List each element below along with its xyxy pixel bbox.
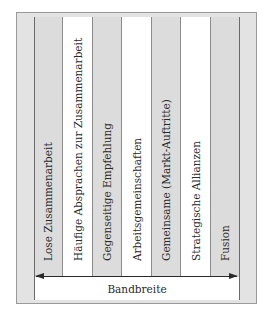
column-label: Häufige Absprachen zur Zusammenarbeit (72, 37, 83, 260)
column-label: Fusion (220, 225, 231, 261)
left-guide-line (34, 17, 35, 300)
arrow-right-icon (229, 273, 238, 279)
column-label: Gemeinsame (Markt-Auftritte) (161, 99, 172, 261)
column-arbeitsgemeinschaften: Arbeitsgemeinschaften (122, 17, 152, 277)
right-guide-line (239, 17, 240, 300)
column-fusion: Fusion (211, 17, 239, 277)
column-label: Strategische Allianzen (190, 141, 201, 261)
column-lose-zusammenarbeit: Lose Zusammenarbeit (34, 17, 63, 277)
column-gegenseitige-empfehlung: Gegenseitige Empfehlung (93, 17, 122, 277)
arrow-left-icon (35, 273, 44, 279)
column-label: Gegenseitige Empfehlung (102, 123, 113, 261)
bandwidth-label: Bandbreite (34, 283, 240, 295)
column-gemeinsame-marktauftritte: Gemeinsame (Markt-Auftritte) (152, 17, 181, 277)
column-haeufige-absprachen: Häufige Absprachen zur Zusammenarbeit (63, 17, 93, 277)
bandwidth-arrow-line (36, 276, 237, 277)
column-label: Lose Zusammenarbeit (43, 142, 54, 261)
column-strategische-allianzen: Strategische Allianzen (181, 17, 211, 277)
column-label: Arbeitsgemeinschaften (131, 137, 142, 260)
